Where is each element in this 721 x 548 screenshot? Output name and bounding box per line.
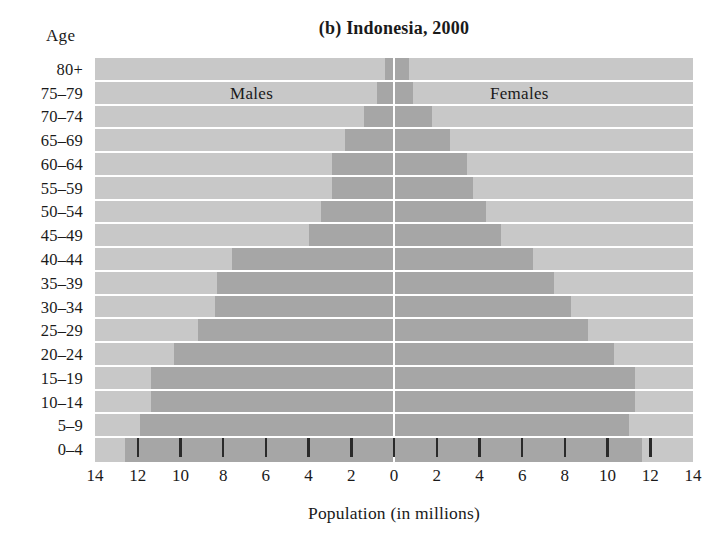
bar-male bbox=[217, 272, 394, 294]
x-axis-tick bbox=[521, 438, 524, 457]
x-axis-tick-label: 4 bbox=[475, 466, 484, 486]
bar-female bbox=[394, 129, 450, 151]
bar-female bbox=[394, 248, 533, 270]
x-axis-tick-label-group: 141210864202468101214 bbox=[95, 466, 693, 492]
bar-male bbox=[345, 129, 394, 151]
age-tick-label: 75–79 bbox=[41, 86, 83, 103]
bar-male bbox=[215, 296, 394, 318]
x-axis-tick-label: 14 bbox=[685, 466, 702, 486]
bar-female bbox=[394, 58, 409, 80]
bar-female bbox=[394, 391, 635, 413]
series-label-males: Males bbox=[230, 84, 273, 104]
x-axis-tick-label: 8 bbox=[219, 466, 228, 486]
bar-female bbox=[394, 414, 629, 436]
x-axis-tick-label: 6 bbox=[262, 466, 271, 486]
bar-female bbox=[394, 343, 614, 365]
plot-area: Males Females bbox=[95, 58, 693, 462]
age-axis-caption: Age bbox=[46, 26, 75, 46]
age-tick-label: 15–19 bbox=[41, 371, 83, 388]
x-axis-tick-label: 8 bbox=[561, 466, 570, 486]
age-tick-label: 80+ bbox=[57, 62, 83, 79]
x-axis-tick bbox=[307, 438, 310, 457]
x-axis-tick-label: 14 bbox=[87, 466, 104, 486]
age-tick-label: 70–74 bbox=[41, 109, 83, 126]
x-axis-tick-label: 10 bbox=[172, 466, 189, 486]
bar-male bbox=[140, 414, 394, 436]
chart-title: (b) Indonesia, 2000 bbox=[95, 18, 693, 39]
bar-male bbox=[377, 82, 394, 104]
bar-female bbox=[394, 272, 554, 294]
age-tick-label: 5–9 bbox=[58, 418, 83, 435]
age-tick-label: 10–14 bbox=[41, 395, 83, 412]
x-axis-tick bbox=[393, 438, 396, 457]
age-tick-label: 40–44 bbox=[41, 252, 83, 269]
x-axis-tick bbox=[350, 438, 353, 457]
bar-female bbox=[394, 319, 588, 341]
bar-male bbox=[332, 177, 394, 199]
bar-female bbox=[394, 224, 501, 246]
age-tick-label: 25–29 bbox=[41, 323, 83, 340]
x-axis-tick bbox=[179, 438, 182, 457]
bar-female bbox=[394, 106, 432, 128]
bar-male bbox=[151, 391, 394, 413]
age-tick-label: 35–39 bbox=[41, 276, 83, 293]
x-axis-tick-label: 12 bbox=[129, 466, 146, 486]
age-tick-label: 20–24 bbox=[41, 347, 83, 364]
bar-male bbox=[364, 106, 394, 128]
bar-female bbox=[394, 82, 413, 104]
x-axis-title: Population (in millions) bbox=[95, 503, 693, 524]
x-axis-tick-label: 12 bbox=[642, 466, 659, 486]
bar-male bbox=[198, 319, 394, 341]
x-axis-tick bbox=[564, 438, 567, 457]
center-axis-line bbox=[393, 58, 395, 462]
x-axis-tick-group bbox=[95, 438, 693, 460]
age-tick-label-group: 80+75–7970–7465–6960–6455–5950–5445–4940… bbox=[0, 58, 90, 462]
x-axis-tick bbox=[649, 438, 652, 457]
x-axis-tick-label: 10 bbox=[599, 466, 616, 486]
bar-female bbox=[394, 201, 486, 223]
population-pyramid-figure: Age (b) Indonesia, 2000 80+75–7970–7465–… bbox=[0, 0, 721, 548]
bar-female bbox=[394, 296, 571, 318]
x-axis-tick bbox=[478, 438, 481, 457]
x-axis-tick bbox=[436, 438, 439, 457]
x-axis-tick bbox=[265, 438, 268, 457]
age-tick-label: 45–49 bbox=[41, 228, 83, 245]
bar-male bbox=[174, 343, 394, 365]
age-tick-label: 65–69 bbox=[41, 133, 83, 150]
x-axis-tick-label: 2 bbox=[432, 466, 441, 486]
x-axis-tick-label: 4 bbox=[304, 466, 313, 486]
series-label-females: Females bbox=[490, 84, 549, 104]
x-axis-tick-label: 0 bbox=[390, 466, 399, 486]
age-tick-label: 0–4 bbox=[58, 442, 83, 459]
bar-male bbox=[309, 224, 394, 246]
bar-male bbox=[151, 367, 394, 389]
x-axis-tick-label: 6 bbox=[518, 466, 527, 486]
x-axis-tick bbox=[606, 438, 609, 457]
age-tick-label: 30–34 bbox=[41, 300, 83, 317]
age-tick-label: 60–64 bbox=[41, 157, 83, 174]
bar-female bbox=[394, 153, 467, 175]
bar-female bbox=[394, 367, 635, 389]
bar-male bbox=[321, 201, 394, 223]
bar-male bbox=[332, 153, 394, 175]
bar-male bbox=[232, 248, 394, 270]
x-axis-tick bbox=[137, 438, 140, 457]
bar-female bbox=[394, 177, 473, 199]
x-axis-tick-label: 2 bbox=[347, 466, 356, 486]
age-tick-label: 55–59 bbox=[41, 181, 83, 198]
x-axis-tick bbox=[222, 438, 225, 457]
age-tick-label: 50–54 bbox=[41, 204, 83, 221]
